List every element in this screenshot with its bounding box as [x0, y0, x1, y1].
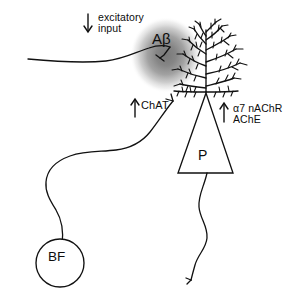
- basal-forebrain-label: BF: [48, 250, 65, 265]
- receptor-arrow: [220, 103, 228, 122]
- receptor-label: α7 nAChRAChE: [233, 103, 282, 126]
- excitatory-input-label: excitatory input: [98, 12, 144, 35]
- pyramidal-label: P: [198, 148, 207, 163]
- excitatory-input-arrow: [84, 14, 92, 32]
- pyramidal-axon: [186, 173, 207, 284]
- diagram-canvas: [0, 0, 299, 300]
- chat-arrow: [131, 99, 139, 117]
- receptor-label-line2: AChE: [233, 113, 261, 125]
- neuroscience-diagram: excitatory input Aβ ChAT α7 nAChRAChE P …: [0, 0, 299, 300]
- cholinergic-projection-axon: [46, 94, 173, 245]
- amyloid-beta-label: Aβ: [152, 31, 171, 47]
- receptor-label-line1: α7 nAChR: [233, 102, 282, 114]
- chat-label: ChAT: [141, 100, 169, 112]
